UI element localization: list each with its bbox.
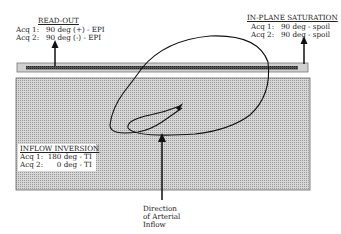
readout-line-2: Acq 2: 90 deg (-) - EPI <box>16 33 101 42</box>
saturation-line-2: Acq 2: 90 deg - spoil <box>251 30 330 39</box>
direction-label-3: Inflow <box>143 220 166 229</box>
readout-title: READ-OUT <box>38 16 72 25</box>
inversion-line-2: Acq 2: 0 deg - TI <box>20 160 92 169</box>
inversion-region <box>16 78 310 190</box>
saturation-title: IN-PLANE SATURATION <box>247 13 338 22</box>
imaging-slab-bar <box>26 66 298 70</box>
